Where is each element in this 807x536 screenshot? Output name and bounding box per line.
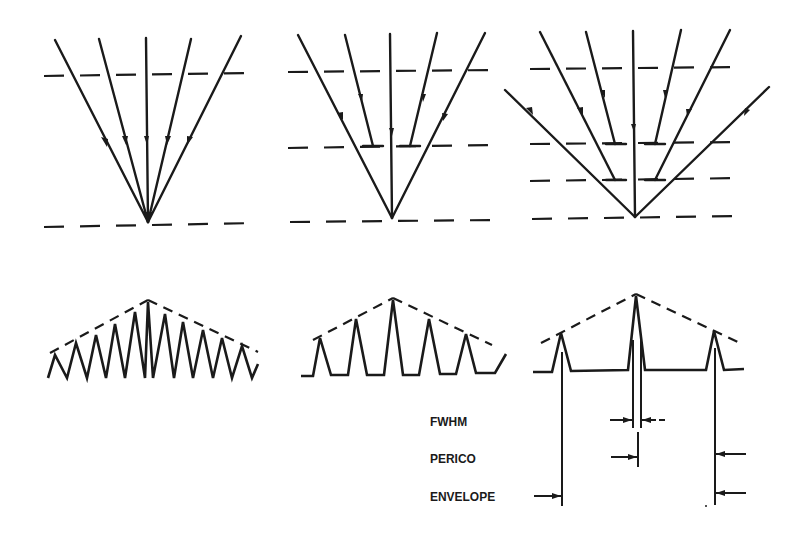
envelope-label: ENVELOPE — [430, 489, 495, 504]
panel-3-rays — [505, 30, 769, 219]
fwhm-label: FWHM — [430, 414, 467, 429]
panel-2-rays — [288, 33, 496, 222]
fringe-pattern-2 — [301, 298, 506, 376]
panel-1-rays — [44, 36, 258, 227]
fringe-pattern-1 — [48, 300, 258, 378]
diagram-svg — [0, 0, 807, 536]
period-label: PERICO — [430, 451, 476, 466]
diagram-canvas: FWHM PERICO ENVELOPE — [0, 0, 807, 536]
fringe-pattern-3 — [533, 294, 746, 507]
